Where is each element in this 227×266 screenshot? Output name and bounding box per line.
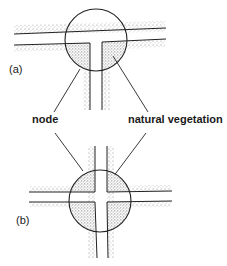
vegetation-strip-down-left <box>83 70 90 110</box>
natural-vegetation-label: natural vegetation <box>128 113 223 125</box>
vegetation-pointer-a <box>113 56 148 112</box>
panel-label-b: (b) <box>16 214 29 226</box>
vegetation-strip-top <box>14 21 165 34</box>
panel-label-a: (a) <box>9 63 22 75</box>
node-pointer-b <box>55 133 83 171</box>
road-node-diagram <box>0 0 227 266</box>
node-pointer-a <box>54 69 80 112</box>
panel-a-t-junction <box>14 9 166 110</box>
panel-b-cross-junction <box>29 146 172 258</box>
node-label: node <box>32 113 58 125</box>
node-circle-a <box>65 9 127 71</box>
vegetation-strip-down-right <box>102 70 110 110</box>
node-circle-b <box>69 170 131 232</box>
